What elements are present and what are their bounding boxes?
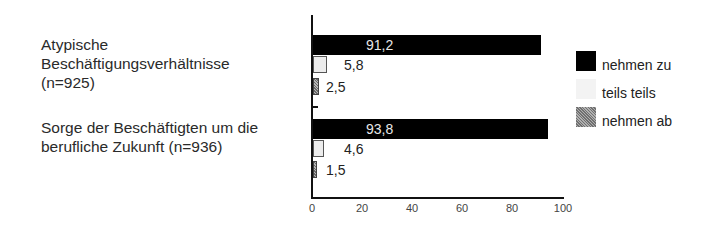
category-label-line: Sorge der Beschäftigten um die xyxy=(41,118,258,137)
bar-atypische-nehmen-ab xyxy=(313,78,319,95)
category-label-sorge: Sorge der Beschäftigten um die beruflich… xyxy=(41,118,258,156)
value-label: 93,8 xyxy=(366,121,393,137)
category-label-line: Beschäftigungsverhältnisse xyxy=(41,54,230,73)
x-tick-label: 60 xyxy=(456,202,468,214)
legend-label: nehmen zu xyxy=(602,57,671,73)
x-tick-label: 20 xyxy=(356,202,368,214)
x-tick-label: 100 xyxy=(554,202,572,214)
category-label-line: Atypische xyxy=(41,35,230,54)
category-label-line: (n=925) xyxy=(41,73,230,92)
legend-swatch-light xyxy=(576,79,596,99)
value-label: 4,6 xyxy=(344,141,363,157)
x-tick-label: 80 xyxy=(506,202,518,214)
value-label: 5,8 xyxy=(344,57,363,73)
category-label-atypische: Atypische Beschäftigungsverhältnisse (n=… xyxy=(41,35,230,92)
value-label: 2,5 xyxy=(326,79,345,95)
bar-atypische-nehmen-zu xyxy=(313,35,541,55)
category-label-line: berufliche Zukunft (n=936) xyxy=(41,137,258,156)
x-tick-label: 0 xyxy=(309,202,315,214)
bar-sorge-nehmen-zu xyxy=(313,119,548,139)
x-axis xyxy=(311,197,564,199)
value-label: 91,2 xyxy=(366,37,393,53)
legend-swatch-black xyxy=(576,51,596,71)
value-label: 1,5 xyxy=(326,162,345,178)
bar-sorge-nehmen-ab xyxy=(313,161,317,178)
bar-sorge-teils-teils xyxy=(313,140,324,157)
legend-label: teils teils xyxy=(602,85,656,101)
bar-atypische-teils-teils xyxy=(313,56,327,73)
x-tick-label: 40 xyxy=(406,202,418,214)
legend-label: nehmen ab xyxy=(602,113,672,129)
legend-swatch-hatched xyxy=(576,107,596,127)
y-axis-tick xyxy=(313,106,318,108)
